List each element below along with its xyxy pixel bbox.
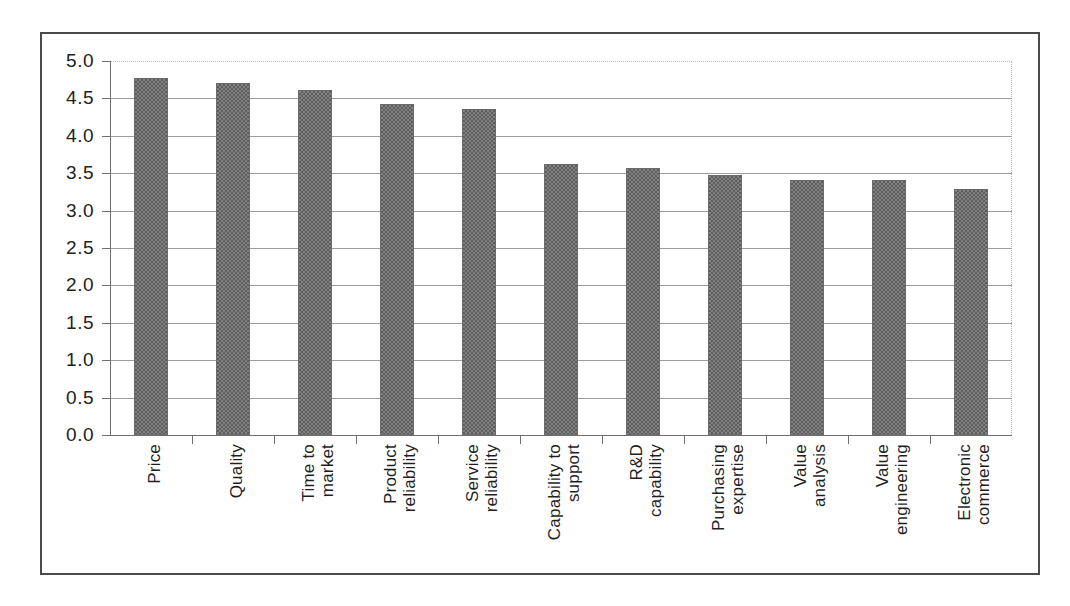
figure-border — [40, 32, 1040, 575]
